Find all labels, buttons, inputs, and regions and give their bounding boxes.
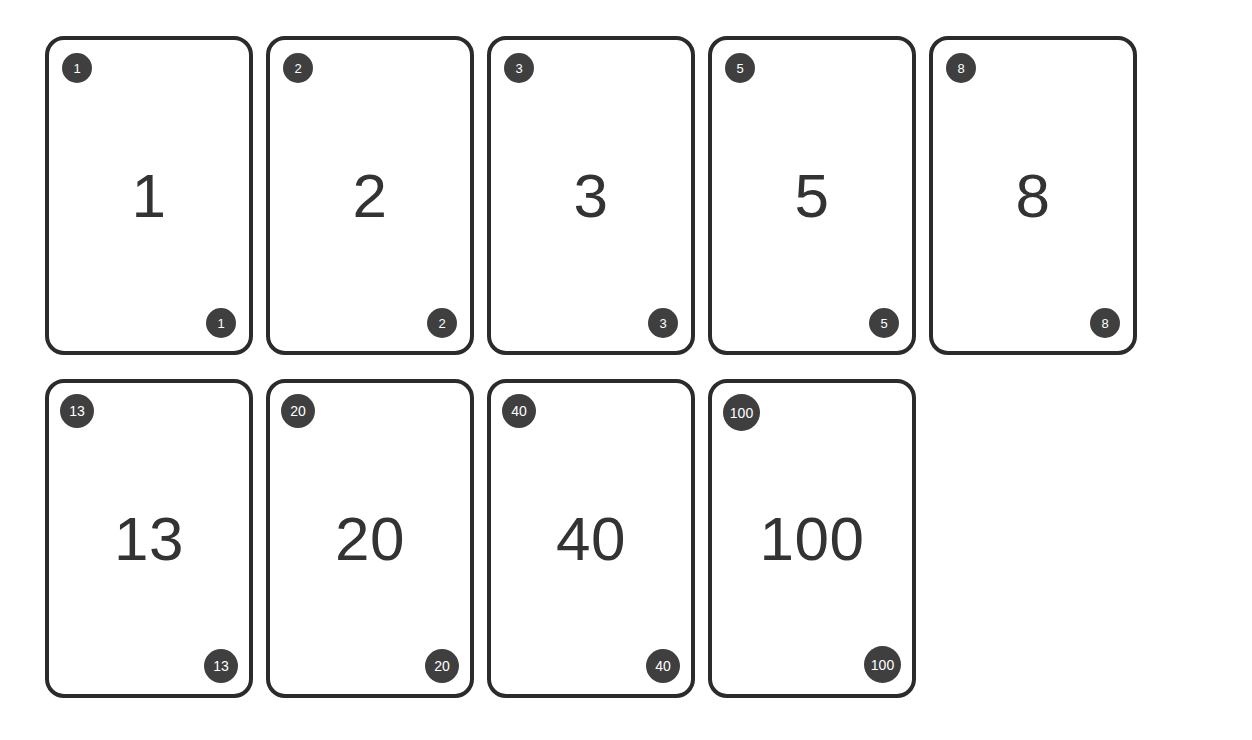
corner-badge-bottom-right: 8 xyxy=(1090,308,1120,338)
corner-badge-bottom-right: 13 xyxy=(204,649,238,683)
card-value: 20 xyxy=(270,508,470,570)
poker-card[interactable]: 888 xyxy=(929,36,1137,355)
corner-badge-top-left: 3 xyxy=(504,53,534,83)
corner-badge-top-left: 100 xyxy=(723,394,760,431)
poker-card[interactable]: 555 xyxy=(708,36,916,355)
corner-badge-bottom-right: 1 xyxy=(206,308,236,338)
card-value: 3 xyxy=(491,165,691,227)
corner-badge-top-left: 8 xyxy=(946,53,976,83)
corner-badge-top-left: 5 xyxy=(725,53,755,83)
card-value: 40 xyxy=(491,508,691,570)
poker-card[interactable]: 100100100 xyxy=(708,379,916,698)
poker-card[interactable]: 222 xyxy=(266,36,474,355)
corner-badge-top-left: 2 xyxy=(283,53,313,83)
corner-badge-top-left: 40 xyxy=(502,394,536,428)
poker-card[interactable]: 131313 xyxy=(45,379,253,698)
card-value: 8 xyxy=(933,165,1133,227)
card-row-1: 111222333555888 xyxy=(45,36,1137,355)
card-deck: 1112223335558881313132020204040401001001… xyxy=(0,0,1252,740)
corner-badge-bottom-right: 40 xyxy=(646,649,680,683)
corner-badge-top-left: 13 xyxy=(60,394,94,428)
corner-badge-bottom-right: 5 xyxy=(869,308,899,338)
poker-card[interactable]: 202020 xyxy=(266,379,474,698)
card-value: 2 xyxy=(270,165,470,227)
card-value: 1 xyxy=(49,165,249,227)
corner-badge-top-left: 1 xyxy=(62,53,92,83)
card-value: 5 xyxy=(712,165,912,227)
poker-card[interactable]: 111 xyxy=(45,36,253,355)
poker-card[interactable]: 404040 xyxy=(487,379,695,698)
corner-badge-bottom-right: 100 xyxy=(864,646,901,683)
corner-badge-bottom-right: 3 xyxy=(648,308,678,338)
card-value: 100 xyxy=(712,508,912,570)
poker-card[interactable]: 333 xyxy=(487,36,695,355)
card-value: 13 xyxy=(49,508,249,570)
corner-badge-bottom-right: 2 xyxy=(427,308,457,338)
corner-badge-bottom-right: 20 xyxy=(425,649,459,683)
card-row-2: 131313202020404040100100100 xyxy=(45,379,916,698)
corner-badge-top-left: 20 xyxy=(281,394,315,428)
